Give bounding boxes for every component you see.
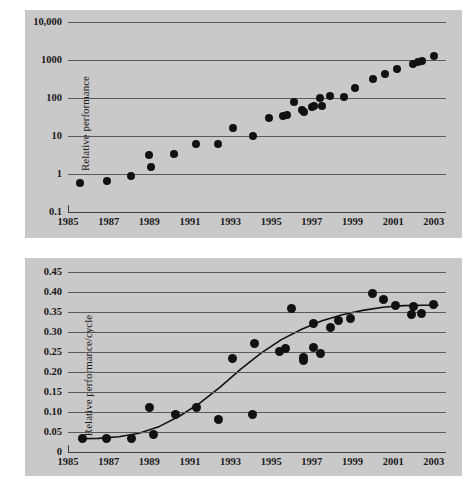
data-point bbox=[287, 304, 296, 313]
data-point bbox=[316, 349, 325, 358]
data-point bbox=[281, 344, 290, 353]
data-point bbox=[171, 410, 180, 419]
y-tick-label: 0.45 bbox=[44, 267, 62, 278]
data-point bbox=[149, 430, 158, 439]
y-tick-label: 0.10 bbox=[44, 407, 62, 418]
y-tick-label: 0.15 bbox=[44, 387, 62, 398]
x-tick-label: 1997 bbox=[301, 457, 322, 468]
data-point bbox=[340, 93, 348, 101]
y-tick-label: 0.20 bbox=[44, 367, 62, 378]
y-tick-label: 0.35 bbox=[44, 307, 62, 318]
data-point bbox=[393, 65, 401, 73]
gridline bbox=[68, 332, 446, 333]
x-tick-label: 2003 bbox=[423, 457, 444, 468]
data-point bbox=[214, 140, 222, 148]
data-point bbox=[249, 132, 257, 140]
gridline bbox=[68, 352, 446, 353]
x-tick-label: 1995 bbox=[261, 217, 282, 228]
data-point bbox=[409, 302, 418, 311]
gridline bbox=[68, 312, 446, 313]
data-point bbox=[265, 114, 273, 122]
x-tick-label: 1985 bbox=[58, 217, 79, 228]
data-point bbox=[170, 150, 178, 158]
x-tick-label: 1995 bbox=[261, 457, 282, 468]
data-point bbox=[369, 75, 377, 83]
data-point bbox=[102, 434, 111, 443]
x-axis-line bbox=[68, 212, 446, 213]
x-tick-label: 1987 bbox=[98, 457, 119, 468]
x-tick-label: 2001 bbox=[383, 217, 404, 228]
data-point bbox=[351, 84, 359, 92]
data-point bbox=[300, 108, 308, 116]
x-tick-label: 2001 bbox=[383, 457, 404, 468]
data-point bbox=[417, 309, 426, 318]
data-point bbox=[391, 301, 400, 310]
y-tick-label: 1000 bbox=[41, 55, 62, 66]
x-tick-label: 1987 bbox=[98, 217, 119, 228]
chart-relative-performance: Relative performance 10,00010001001010.1… bbox=[0, 0, 471, 250]
gridline bbox=[68, 98, 446, 99]
plot-area-bottom: Relative performance/cycle 0.450.400.350… bbox=[68, 272, 446, 452]
x-tick-label: 1989 bbox=[139, 217, 160, 228]
data-point bbox=[127, 172, 135, 180]
gridline bbox=[68, 272, 446, 273]
x-axis-tick-mark bbox=[68, 205, 69, 212]
data-point bbox=[283, 111, 291, 119]
gridline bbox=[68, 372, 446, 373]
data-point bbox=[103, 177, 111, 185]
y-tick-label: 10,000 bbox=[33, 17, 62, 28]
x-tick-label: 1999 bbox=[342, 457, 363, 468]
gridline bbox=[68, 432, 446, 433]
x-tick-label: 1985 bbox=[58, 457, 79, 468]
data-point bbox=[214, 415, 223, 424]
data-point bbox=[309, 319, 318, 328]
data-point bbox=[381, 70, 389, 78]
x-axis-tick-mark bbox=[68, 445, 69, 452]
data-point bbox=[250, 339, 259, 348]
x-tick-label: 1997 bbox=[301, 217, 322, 228]
x-axis-line bbox=[68, 452, 446, 453]
data-point bbox=[418, 57, 426, 65]
data-point bbox=[429, 300, 438, 309]
y-tick-label: 0.40 bbox=[44, 287, 62, 298]
data-point bbox=[299, 356, 308, 365]
gridline bbox=[68, 392, 446, 393]
gridline bbox=[68, 174, 446, 175]
data-point bbox=[346, 314, 355, 323]
gridline bbox=[68, 22, 446, 23]
data-point bbox=[145, 151, 153, 159]
gridline bbox=[68, 60, 446, 61]
chart-relative-performance-per-cycle: Relative performance/cycle 0.450.400.350… bbox=[0, 250, 471, 493]
x-tick-label: 1989 bbox=[139, 457, 160, 468]
x-tick-label: 1993 bbox=[220, 457, 241, 468]
gridline bbox=[68, 136, 446, 137]
y-tick-label: 0.30 bbox=[44, 327, 62, 338]
data-point bbox=[326, 323, 335, 332]
data-point bbox=[334, 316, 343, 325]
data-point bbox=[145, 403, 154, 412]
data-point bbox=[192, 140, 200, 148]
x-tick-label: 1999 bbox=[342, 217, 363, 228]
plot-area-top: Relative performance 10,00010001001010.1… bbox=[68, 22, 446, 212]
y-tick-label: 1 bbox=[57, 169, 62, 180]
data-point bbox=[78, 434, 87, 443]
data-point bbox=[368, 289, 377, 298]
data-point bbox=[379, 295, 388, 304]
x-tick-label: 1991 bbox=[179, 217, 200, 228]
gridline bbox=[68, 412, 446, 413]
data-point bbox=[318, 102, 326, 110]
x-tick-label: 1991 bbox=[179, 457, 200, 468]
data-point bbox=[228, 354, 237, 363]
y-tick-label: 0.05 bbox=[44, 427, 62, 438]
sigmoid-fit-curve bbox=[68, 272, 446, 452]
data-point bbox=[192, 403, 201, 412]
y-tick-label: 0.25 bbox=[44, 347, 62, 358]
data-point bbox=[290, 98, 298, 106]
y-axis-label: Relative performance bbox=[80, 49, 91, 199]
data-point bbox=[229, 124, 237, 132]
data-point bbox=[248, 410, 257, 419]
data-point bbox=[316, 94, 324, 102]
x-tick-label: 1993 bbox=[220, 217, 241, 228]
data-point bbox=[147, 163, 155, 171]
y-tick-label: 100 bbox=[46, 93, 62, 104]
